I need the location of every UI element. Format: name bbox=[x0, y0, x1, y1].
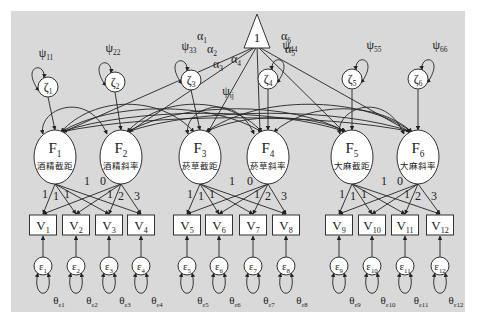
slope-loading-value: 0 bbox=[247, 174, 253, 188]
intercept-loading-value: 1 bbox=[381, 174, 387, 188]
factor-name: 大麻斜率 bbox=[400, 161, 436, 171]
intercept-loading-value: 1 bbox=[198, 189, 204, 203]
slope-loading-value: 1 bbox=[107, 187, 113, 201]
slope-loading-value: 3 bbox=[134, 189, 140, 203]
intercept-loading-value: 1 bbox=[361, 187, 367, 201]
intercept-loading-value: 1 bbox=[42, 187, 48, 201]
latent-factor-node bbox=[100, 130, 142, 184]
constant-label: 1 bbox=[254, 30, 261, 45]
factor-name: 大麻截距 bbox=[334, 161, 370, 171]
slope-loading-value: 1 bbox=[404, 187, 410, 201]
factor-name: 酒精截距 bbox=[37, 161, 73, 171]
latent-factor-node bbox=[34, 130, 76, 184]
latent-factor-node bbox=[331, 130, 373, 184]
factor-name: 菸草斜率 bbox=[250, 161, 286, 171]
slope-loading-value: 1 bbox=[254, 187, 260, 201]
intercept-loading-value: 1 bbox=[350, 189, 356, 203]
slope-loading-value: 2 bbox=[415, 189, 421, 203]
intercept-loading-value: 1 bbox=[209, 187, 215, 201]
intercept-loading-value: 1 bbox=[187, 187, 193, 201]
latent-factor-node bbox=[247, 130, 289, 184]
latent-factor-node bbox=[397, 130, 439, 184]
intercept-loading-value: 1 bbox=[229, 174, 235, 188]
slope-loading-value: 3 bbox=[281, 189, 287, 203]
sem-diagram: 1ζ1ψ11ζ2ψ22ζ3ψ33ζ4ψ44ζ5ψ55ζ6ψ66F1酒精截距F2酒… bbox=[0, 0, 477, 321]
slope-loading-value: 0 bbox=[100, 174, 106, 188]
slope-loading-value: 2 bbox=[265, 189, 271, 203]
sem-diagram-canvas: 1ζ1ψ11ζ2ψ22ζ3ψ33ζ4ψ44ζ5ψ55ζ6ψ66F1酒精截距F2酒… bbox=[0, 0, 477, 321]
slope-loading-value: 2 bbox=[118, 189, 124, 203]
factor-name: 菸草截距 bbox=[182, 161, 218, 171]
intercept-loading-value: 1 bbox=[64, 187, 70, 201]
intercept-loading-value: 1 bbox=[84, 174, 90, 188]
intercept-loading-value: 1 bbox=[53, 189, 59, 203]
slope-loading-value: 3 bbox=[431, 189, 437, 203]
slope-loading-value: 0 bbox=[397, 174, 403, 188]
factor-name: 酒精斜率 bbox=[103, 161, 139, 171]
latent-factor-node bbox=[179, 130, 221, 184]
intercept-loading-value: 1 bbox=[339, 187, 345, 201]
